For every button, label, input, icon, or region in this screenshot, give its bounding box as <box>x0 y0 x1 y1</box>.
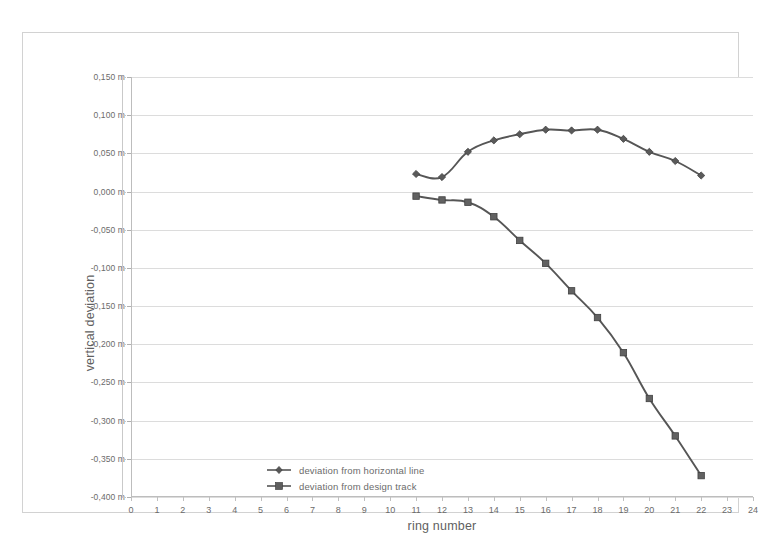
diamond-marker-icon <box>266 463 292 477</box>
x-axis-tick-label: 24 <box>748 505 758 515</box>
x-axis-tick-mark <box>442 497 443 501</box>
x-axis-tick-label: 13 <box>463 505 473 515</box>
x-axis-tick-label: 21 <box>670 505 680 515</box>
y-axis-tick-label: -0,350 m <box>91 454 125 464</box>
x-axis-tick-mark <box>364 497 365 501</box>
data-series <box>412 126 704 181</box>
series-layer <box>131 77 753 497</box>
series-line <box>416 129 701 178</box>
x-axis-tick-mark <box>287 497 288 501</box>
data-point-square <box>517 237 523 243</box>
data-point-square <box>465 199 471 205</box>
x-axis-tick-mark <box>416 497 417 501</box>
y-axis-spine-tick <box>122 153 126 154</box>
x-axis-tick-mark <box>338 497 339 501</box>
x-axis-tick-label: 22 <box>696 505 706 515</box>
x-axis-tick-label: 14 <box>489 505 499 515</box>
data-point-diamond <box>516 131 523 138</box>
y-axis-spine-tick <box>122 344 126 345</box>
x-axis-tick-label: 4 <box>232 505 237 515</box>
x-axis-tick-label: 5 <box>258 505 263 515</box>
x-axis-tick-mark <box>572 497 573 501</box>
x-axis-tick-mark <box>390 497 391 501</box>
data-point-diamond <box>412 170 419 177</box>
plot-area: 0,150 m0,100 m0,050 m0,000 m-0,050 m-0,1… <box>131 77 753 497</box>
data-series <box>413 193 704 479</box>
x-axis-tick-label: 11 <box>411 505 420 515</box>
y-axis-tick-label: 0,000 m <box>94 187 125 197</box>
x-axis-tick-label: 2 <box>180 505 185 515</box>
x-axis-tick-mark <box>623 497 624 501</box>
data-point-square <box>698 472 704 478</box>
y-axis-spine-tick <box>122 268 126 269</box>
x-axis-tick-label: 18 <box>592 505 602 515</box>
y-axis-tick-label: -0,250 m <box>91 377 125 387</box>
y-axis-tick-label: 0,050 m <box>94 148 125 158</box>
y-axis-spine-tick <box>122 421 126 422</box>
x-axis-title: ring number <box>131 519 753 533</box>
chart-frame: vertical deviation ring number 0,150 m0,… <box>22 32 739 513</box>
legend-item-label: deviation from design track <box>299 481 417 492</box>
legend-item: deviation from horizontal line <box>266 462 424 478</box>
data-point-square <box>594 314 600 320</box>
square-marker-icon <box>266 479 292 493</box>
y-axis-tick-label: 0,150 m <box>94 72 125 82</box>
x-axis-tick-mark <box>520 497 521 501</box>
data-point-diamond <box>620 135 627 142</box>
y-axis-spine-tick <box>122 115 126 116</box>
y-axis-title: vertical deviation <box>83 203 101 443</box>
y-axis-spine-tick <box>122 192 126 193</box>
y-axis-tick-label: -0,150 m <box>91 301 125 311</box>
x-axis-tick-label: 17 <box>567 505 577 515</box>
legend: deviation from horizontal line deviation… <box>266 462 424 494</box>
data-point-square <box>672 433 678 439</box>
x-axis-tick-mark <box>494 497 495 501</box>
x-axis-tick-mark <box>675 497 676 501</box>
x-axis-tick-mark <box>598 497 599 501</box>
data-point-diamond <box>672 157 679 164</box>
x-axis-tick-mark <box>753 497 754 501</box>
x-axis-tick-label: 23 <box>722 505 732 515</box>
x-axis-tick-mark <box>546 497 547 501</box>
legend-item: deviation from design track <box>266 478 424 494</box>
x-axis-tick-label: 16 <box>541 505 551 515</box>
y-axis-spine-tick <box>122 459 126 460</box>
x-axis-tick-label: 15 <box>515 505 525 515</box>
y-axis-tick-label: -0,200 m <box>91 339 125 349</box>
data-point-square <box>646 395 652 401</box>
data-point-square <box>620 349 626 355</box>
y-axis-spine-tick <box>122 77 126 78</box>
data-point-diamond <box>542 126 549 133</box>
data-point-square <box>491 214 497 220</box>
x-axis-tick-mark <box>468 497 469 501</box>
data-point-square <box>542 260 548 266</box>
data-point-diamond <box>490 137 497 144</box>
x-axis-tick-label: 7 <box>310 505 315 515</box>
y-axis-tick-label: 0,100 m <box>94 110 125 120</box>
x-axis-tick-mark <box>727 497 728 501</box>
y-axis-spine-tick <box>122 382 126 383</box>
x-axis-tick-mark <box>131 497 132 501</box>
y-axis-tick-label: -0,050 m <box>91 225 125 235</box>
x-axis-tick-mark <box>261 497 262 501</box>
data-point-square <box>439 197 445 203</box>
y-axis-tick-label: -0,100 m <box>91 263 125 273</box>
x-axis-tick-mark <box>157 497 158 501</box>
y-axis-spine-tick <box>122 306 126 307</box>
data-point-square <box>568 288 574 294</box>
y-axis-tick-label: -0,400 m <box>91 492 125 502</box>
data-point-diamond <box>646 148 653 155</box>
x-axis-tick-mark <box>649 497 650 501</box>
y-axis-spine-tick <box>122 497 126 498</box>
x-axis-tick-label: 20 <box>644 505 654 515</box>
x-axis-tick-mark <box>235 497 236 501</box>
y-axis-spine <box>122 76 123 497</box>
x-axis-tick-mark <box>183 497 184 501</box>
data-point-diamond <box>568 127 575 134</box>
y-axis-spine-tick <box>122 230 126 231</box>
x-axis-tick-label: 8 <box>336 505 341 515</box>
x-axis-tick-label: 9 <box>362 505 367 515</box>
data-point-square <box>413 193 419 199</box>
legend-item-label: deviation from horizontal line <box>299 465 424 476</box>
x-axis-tick-mark <box>209 497 210 501</box>
